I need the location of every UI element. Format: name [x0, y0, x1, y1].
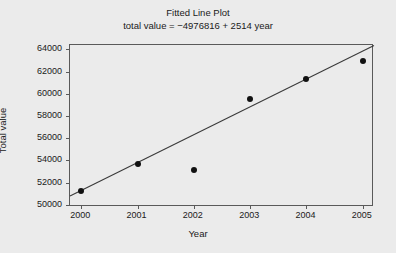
x-axis-tick-label: 2001: [115, 210, 159, 220]
y-axis-tick-label: 56000: [14, 132, 62, 142]
fitted-line-plot: Fitted Line Plot total value = −4976816 …: [0, 0, 396, 253]
x-axis-tick-mark: [81, 205, 82, 209]
y-axis-tick-label: 58000: [14, 110, 62, 120]
y-axis-tick-mark: [66, 72, 70, 73]
x-axis-tick-mark: [363, 205, 364, 209]
x-axis-tick-label: 2004: [283, 210, 327, 220]
x-axis-tick-mark: [138, 205, 139, 209]
data-point: [360, 58, 366, 64]
y-axis-tick-label: 60000: [14, 88, 62, 98]
y-axis-tick-mark: [66, 183, 70, 184]
x-axis-tick-label: 2005: [340, 210, 384, 220]
y-axis-title: Total value: [0, 108, 8, 153]
x-axis-title: Year: [0, 228, 396, 239]
y-axis-tick-label: 54000: [14, 154, 62, 164]
x-axis-tick-mark: [250, 205, 251, 209]
y-axis-tick-label: 64000: [14, 43, 62, 53]
y-axis-tick-labels: 5000052000540005600058000600006200064000: [0, 0, 66, 253]
y-axis-tick-label: 52000: [14, 177, 62, 187]
x-axis-tick-mark: [194, 205, 195, 209]
x-axis-tick-label: 2000: [58, 210, 102, 220]
data-point: [135, 161, 141, 167]
y-axis-tick-label: 50000: [14, 199, 62, 209]
y-axis-tick-mark: [66, 205, 70, 206]
y-axis-tick-mark: [66, 116, 70, 117]
y-axis-tick-mark: [66, 94, 70, 95]
y-axis-tick-mark: [66, 138, 70, 139]
y-axis-tick-mark: [66, 160, 70, 161]
x-axis-tick-mark: [306, 205, 307, 209]
y-axis-tick-label: 62000: [14, 66, 62, 76]
x-axis-tick-label: 2003: [227, 210, 271, 220]
x-axis-tick-label: 2002: [171, 210, 215, 220]
regression-line: [70, 45, 374, 207]
y-axis-tick-mark: [66, 49, 70, 50]
plot-area: [69, 44, 373, 206]
